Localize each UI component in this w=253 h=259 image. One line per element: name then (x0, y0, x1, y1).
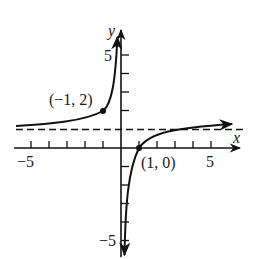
y-axis-label: y (106, 22, 116, 40)
point-label-1-0: (1, 0) (141, 154, 176, 172)
curve-right-branch (125, 124, 233, 255)
function-graph: y x −5 5 5 −5 (−1, 2) (1, 0) (0, 0, 253, 259)
point-neg1-2 (100, 108, 106, 114)
x-tick-label-neg5: −5 (17, 153, 34, 170)
point-1-0 (136, 145, 142, 151)
x-tick-label-5: 5 (206, 153, 214, 170)
x-axis-label: x (232, 129, 240, 146)
y-tick-label-5: 5 (104, 47, 112, 64)
point-label-neg1-2: (−1, 2) (49, 91, 93, 109)
y-tick-label-neg5: −5 (99, 232, 116, 249)
